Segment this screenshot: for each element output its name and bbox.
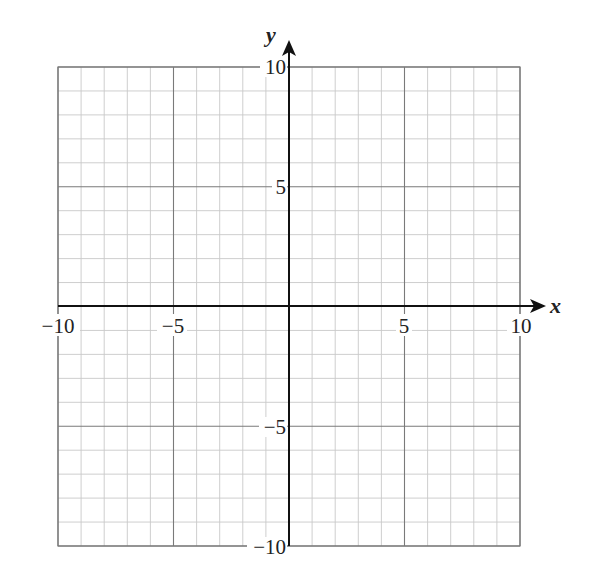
x-tick-labels: −10 −5 5 10: [38, 314, 535, 338]
x-axis-label: x: [549, 293, 561, 318]
x-tick-label: −5: [162, 314, 184, 338]
x-tick-label: 5: [399, 314, 410, 338]
y-tick-label: −5: [264, 415, 286, 439]
y-tick-label: 5: [276, 175, 287, 199]
y-tick-label: −10: [253, 535, 286, 559]
coordinate-plane: x y −10 −5 5 10 10 5 −5 −10: [0, 0, 590, 588]
x-tick-label: 10: [511, 314, 532, 338]
y-tick-label: 10: [265, 55, 286, 79]
y-axis-label: y: [263, 22, 276, 47]
x-tick-label: −10: [42, 314, 75, 338]
